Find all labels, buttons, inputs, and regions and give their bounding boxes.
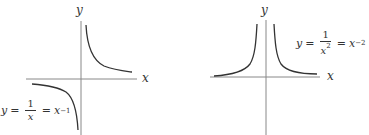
eq-equals: = xyxy=(305,37,314,50)
eq-fraction: 1 x2 xyxy=(320,30,330,56)
eq-denominator: x xyxy=(28,111,34,122)
left-x-axis-label: x xyxy=(142,72,149,84)
eq-equals-2: = xyxy=(42,104,51,117)
eq-equals: = xyxy=(10,104,19,117)
eq-numerator: 1 xyxy=(320,30,330,42)
left-equation: y = 1 x = x−1 xyxy=(1,99,71,122)
right-equation: y = 1 x2 = x−2 xyxy=(296,30,366,56)
eq-numerator: 1 xyxy=(25,99,35,111)
eq-den-exponent: 2 xyxy=(326,42,330,50)
eq-equals-2: = xyxy=(337,37,346,50)
right-x-axis-label: x xyxy=(327,70,334,82)
eq-denominator: x2 xyxy=(321,42,331,56)
left-curve-positive xyxy=(86,25,132,72)
right-curve-left xyxy=(214,24,257,76)
right-y-axis-label: y xyxy=(261,4,268,16)
left-y-axis-label: y xyxy=(76,4,83,16)
eq-lhs: y xyxy=(296,37,302,50)
eq-exponent: −1 xyxy=(60,107,70,115)
eq-lhs: y xyxy=(1,104,7,117)
eq-exponent: −2 xyxy=(355,39,365,47)
eq-fraction: 1 x xyxy=(25,99,35,122)
